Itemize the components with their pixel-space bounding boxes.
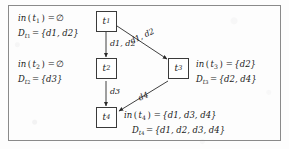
node-t3[interactable]: t3 [168,58,189,79]
d-sym-t1: D [18,28,25,38]
equals-t4-d: = [145,125,155,135]
equals-t3-d: = [209,74,219,84]
annotation-t4: in(t4)={d1, d3, d4} Dt4={d1, d2, d3, d4} [124,109,225,140]
d-sym-t4: D [132,125,139,135]
node-t2[interactable]: t2 [96,58,117,79]
node-t1-subscript: 1 [106,18,110,25]
node-t1[interactable]: t1 [96,11,117,32]
in-value-t2: ∅ [56,59,64,69]
d-value-t2: {d3} [41,74,63,84]
edge-label-t2-t4: d3 [110,88,120,96]
in-fn-t2: in [18,59,26,69]
in-value-t3: {d2} [234,59,256,69]
annotation-t1-in: in(t1)=∅ [18,12,79,27]
node-t4[interactable]: t4 [96,107,117,128]
node-t3-subscript: 3 [178,65,182,72]
equals-t1-d: = [31,28,41,38]
annotation-t2: in(t2)=∅ Dt2={d3} [18,58,64,89]
d-value-t1: {d1, d2} [41,28,79,38]
annotation-t3-in: in(t3)={d2} [196,58,257,73]
annotation-t2-in: in(t2)=∅ [18,58,64,73]
d-value-t4: {d1, d2, d3, d4} [155,125,225,135]
node-t2-subscript: 2 [106,65,110,72]
in-value-t1: ∅ [56,13,64,23]
d-sym-t2: D [18,74,25,84]
equals-t1-in: = [46,13,56,23]
in-fn-t3: in [196,59,204,69]
annotation-t3: in(t3)={d2} Dt3={d2, d4} [196,58,257,89]
annotation-t1: in(t1)=∅ Dt1={d1, d2} [18,12,79,43]
dataflow-figure: t1 t2 t3 t4 d1, d2 d1, d2 d3 d4 in(t1)=∅… [0,0,289,149]
equals-t2-in: = [46,59,56,69]
annotation-t1-d: Dt1={d1, d2} [18,27,79,43]
equals-t2-d: = [31,74,41,84]
node-t4-subscript: 4 [106,114,110,121]
annotation-t4-d: Dt4={d1, d2, d3, d4} [124,124,225,140]
in-value-t4: {d1, d3, d4} [162,110,216,120]
equals-t3-in: = [224,59,234,69]
in-fn-t1: in [18,13,26,23]
annotation-t4-in: in(t4)={d1, d3, d4} [124,109,225,124]
annotation-t2-d: Dt2={d3} [18,73,64,89]
annotation-t3-d: Dt3={d2, d4} [196,73,257,89]
in-fn-t4: in [124,110,132,120]
equals-t4-in: = [152,110,162,120]
d-sym-t3: D [196,74,203,84]
d-value-t3: {d2, d4} [219,74,257,84]
